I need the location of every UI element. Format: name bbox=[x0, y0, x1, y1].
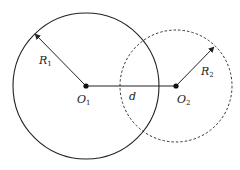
label-d: d bbox=[129, 90, 136, 103]
label-r2: R2 bbox=[200, 65, 214, 79]
label-r1: R1 bbox=[38, 54, 52, 68]
center-o2-dot bbox=[173, 83, 178, 88]
label-o1: O1 bbox=[77, 93, 91, 107]
center-o1-dot bbox=[83, 83, 88, 88]
two-circles-diagram: R1 R2 O1 O2 d bbox=[0, 0, 240, 170]
label-o2: O2 bbox=[177, 93, 191, 107]
